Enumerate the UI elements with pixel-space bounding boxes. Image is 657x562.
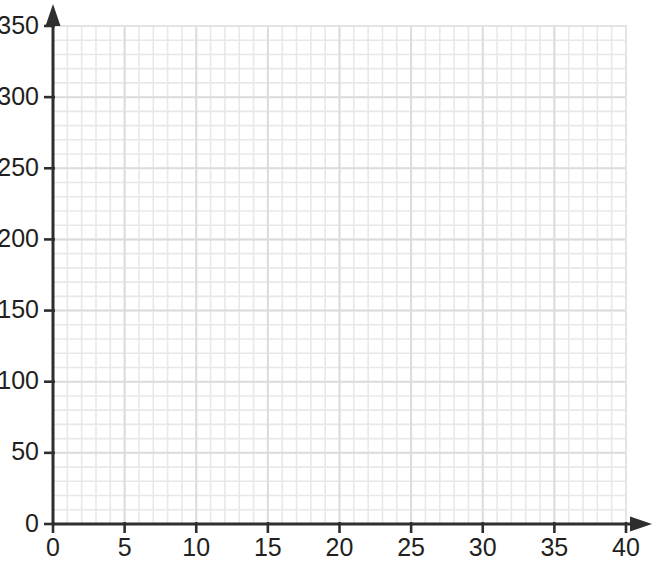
y-axis-tick-label: 150 [0,295,39,323]
y-axis-tick-label: 0 [25,509,39,537]
y-axis-tick-label: 50 [11,437,39,465]
y-axis-tick-label: 250 [0,153,39,181]
chart-canvas: 050100150200250300350 0510152025303540 [0,0,657,562]
x-axis-tick-label: 40 [612,533,640,561]
x-axis-tick-label: 15 [254,533,282,561]
y-axis-tick-label: 350 [0,11,39,39]
x-axis-tick-label: 35 [540,533,568,561]
chart-background [0,0,657,562]
coordinate-grid-chart: 050100150200250300350 0510152025303540 [0,0,657,562]
x-axis-tick-label: 0 [46,533,60,561]
x-axis-tick-label: 25 [397,533,425,561]
y-axis-tick-label: 200 [0,224,39,252]
y-axis-tick-label: 100 [0,366,39,394]
x-axis-tick-label: 10 [182,533,210,561]
x-axis-tick-label: 30 [469,533,497,561]
y-axis-tick-label: 300 [0,82,39,110]
x-axis-tick-label: 5 [118,533,132,561]
x-axis-tick-label: 20 [326,533,354,561]
